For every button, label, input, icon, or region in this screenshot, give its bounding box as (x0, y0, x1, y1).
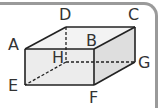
label-F: F (89, 88, 98, 107)
label-E: E (8, 76, 18, 95)
label-C: C (128, 5, 139, 24)
prism-diagram: A B C D E F G H (0, 0, 162, 108)
label-G: G (138, 53, 150, 72)
label-A: A (8, 35, 19, 54)
label-B: B (86, 31, 97, 50)
label-D: D (59, 5, 71, 24)
label-H: H (52, 48, 64, 67)
